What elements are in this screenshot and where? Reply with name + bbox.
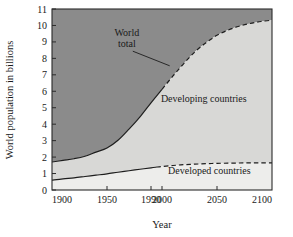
y-tick-label-1: 1 — [42, 168, 47, 179]
y-tick-label-7: 7 — [42, 69, 47, 80]
y-tick-label-10: 10 — [37, 20, 47, 31]
x-tick-label-1950: 1950 — [97, 194, 117, 205]
y-tick-label-8: 8 — [42, 53, 47, 64]
y-tick-label-4: 4 — [42, 119, 47, 130]
world-total-label-line2: total — [118, 38, 136, 49]
population-area-chart: 01234567891011 190019501990200020502100 … — [0, 0, 293, 237]
world-total-label-line1: World — [114, 27, 139, 38]
developing-countries-label: Developing countries — [161, 93, 247, 104]
x-tick-label-2050: 2050 — [207, 194, 227, 205]
x-tick-label-2100: 2100 — [252, 194, 272, 205]
x-tick-label-2000: 2000 — [152, 194, 172, 205]
y-axis-title: World population in billions — [4, 41, 15, 159]
y-tick-label-0: 0 — [42, 185, 47, 196]
y-tick-label-5: 5 — [42, 102, 47, 113]
x-tick-label-1900: 1900 — [52, 194, 72, 205]
y-tick-label-6: 6 — [42, 86, 47, 97]
y-tick-label-3: 3 — [42, 135, 47, 146]
x-axis-title: Year — [152, 219, 172, 230]
developed-countries-label: Developed countries — [168, 165, 251, 176]
y-tick-label-9: 9 — [42, 36, 47, 47]
y-tick-label-2: 2 — [42, 152, 47, 163]
y-tick-label-11: 11 — [37, 4, 47, 15]
